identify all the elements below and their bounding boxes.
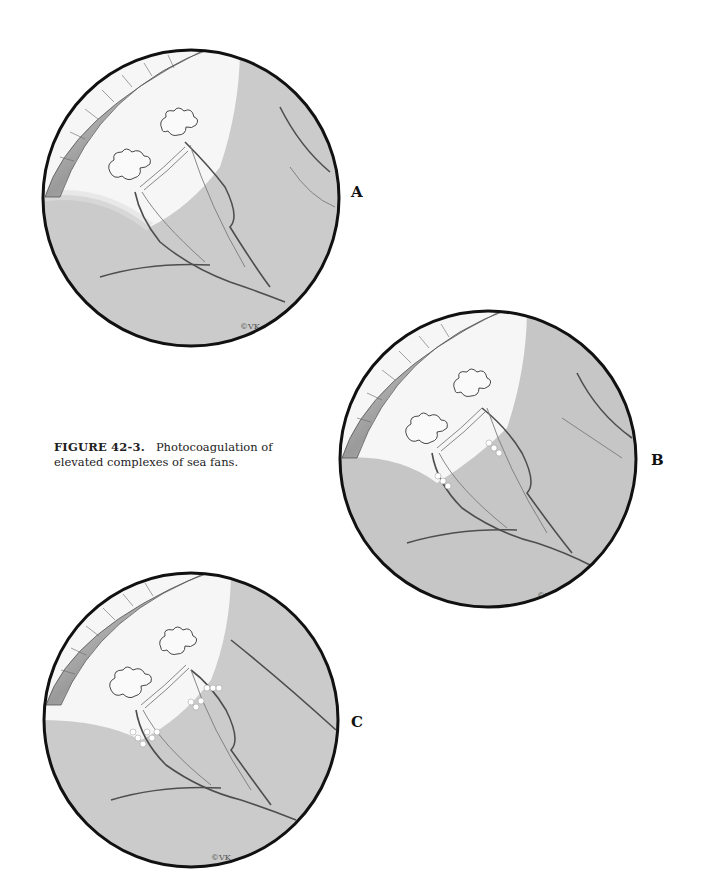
fundus-illustration-a: ©VK xyxy=(40,47,342,349)
figure-number: FIGURE 42-3. xyxy=(54,440,145,454)
fundus-panel-b: ©VK xyxy=(337,308,639,610)
panel-label-a: A xyxy=(351,183,363,201)
fundus-panel-a: ©VK xyxy=(40,47,342,349)
fundus-illustration-b: ©VK xyxy=(337,308,639,610)
figure-caption: FIGURE 42-3. Photocoagulation of elevate… xyxy=(54,440,324,470)
panel-label-c: C xyxy=(351,713,363,731)
fundus-illustration-c: ©VK xyxy=(41,570,343,872)
fundus-panel-c: ©VK xyxy=(41,570,343,872)
panel-label-b: B xyxy=(651,451,664,469)
